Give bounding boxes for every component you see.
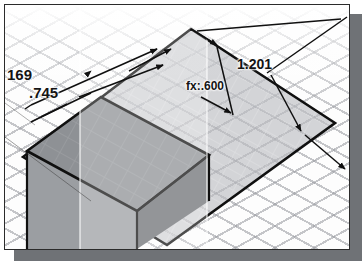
dimension-value-745[interactable]: .745 — [29, 85, 58, 100]
dimension-value-169[interactable]: 169 — [7, 67, 32, 82]
dimension-value-600[interactable]: fx:.600 — [186, 80, 224, 92]
graphics-window[interactable]: 169 .745 fx:.600 1.201 — [4, 4, 350, 250]
dimension-value-1201[interactable]: 1.201 — [237, 57, 272, 71]
model-geometry-svg — [5, 5, 349, 249]
translucent-plane-band — [80, 5, 207, 249]
cad-viewport-window: 169 .745 fx:.600 1.201 — [0, 0, 362, 261]
model-scene[interactable] — [5, 5, 349, 249]
